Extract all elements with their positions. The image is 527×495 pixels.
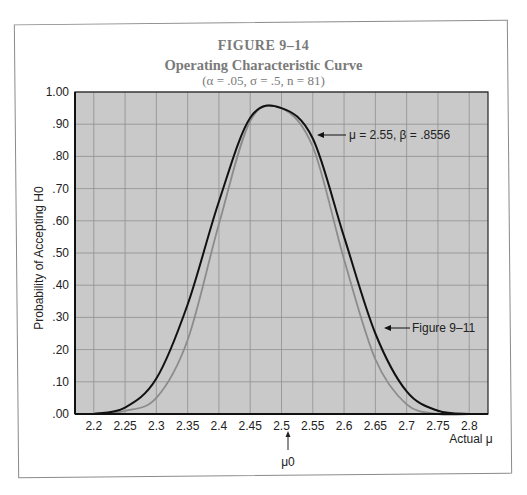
y-tick-label: 1.00	[46, 85, 70, 99]
y-tick-label: .10	[52, 375, 69, 389]
x-axis-ticks: 2.22.252.32.352.42.452.52.552.62.652.72.…	[85, 419, 477, 433]
point-label: μ = 2.55, β = .8556	[349, 128, 451, 142]
x-tick-label: 2.6	[336, 419, 353, 433]
y-tick-label: .50	[52, 246, 69, 260]
y-tick-label: .20	[52, 343, 69, 357]
x-tick-label: 2.35	[176, 419, 200, 433]
x-tick-label: 2.45	[239, 419, 263, 433]
x-tick-label: 2.5	[273, 419, 290, 433]
y-tick-label: .60	[52, 214, 69, 228]
oc-chart: 2.22.252.32.352.42.452.52.552.62.652.72.…	[0, 0, 527, 495]
y-tick-label: .80	[52, 149, 69, 163]
y-tick-label: .40	[52, 278, 69, 292]
x-tick-label: 2.55	[301, 419, 325, 433]
y-axis-label: Probability of Accepting H0	[32, 186, 46, 330]
mu0-marker: μ0	[281, 431, 295, 469]
y-tick-label: .90	[52, 117, 69, 131]
x-tick-label: 2.3	[148, 419, 165, 433]
x-tick-label: 2.7	[398, 419, 415, 433]
y-tick-label: .00	[52, 407, 69, 421]
x-axis-label: Actual μ	[449, 432, 493, 446]
compare-label: Figure 9–11	[412, 321, 475, 335]
x-tick-label: 2.8	[461, 419, 478, 433]
x-tick-label: 2.4	[211, 419, 228, 433]
x-tick-label: 2.65	[364, 419, 388, 433]
mu0-label: μ0	[281, 455, 295, 469]
y-axis-ticks: .00.10.20.30.40.50.60.70.80.901.00	[46, 85, 70, 421]
x-tick-label: 2.25	[113, 419, 137, 433]
x-tick-label: 2.2	[85, 419, 102, 433]
y-tick-label: .70	[52, 182, 69, 196]
y-tick-label: .30	[52, 310, 69, 324]
x-tick-label: 2.75	[426, 419, 450, 433]
